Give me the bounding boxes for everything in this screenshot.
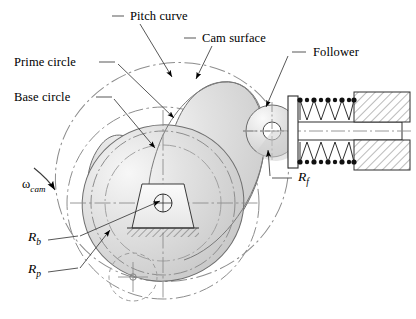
label-prime-circle: Prime circle xyxy=(14,56,76,69)
r-f-subscript: f xyxy=(306,177,309,187)
cam-follower-diagram: Pitch curve Cam surface Prime circle Bas… xyxy=(0,0,416,319)
label-pitch-curve: Pitch curve xyxy=(130,10,188,23)
label-r-f: Rf xyxy=(298,170,309,187)
omega-subscript: cam xyxy=(30,184,45,194)
label-r-p: Rp xyxy=(28,262,41,279)
r-b-subscript: b xyxy=(36,237,41,247)
label-base-circle: Base circle xyxy=(14,91,70,104)
r-p-subscript: p xyxy=(36,269,41,279)
label-omega-cam: ωcam xyxy=(22,178,46,194)
label-cam-surface: Cam surface xyxy=(202,32,266,45)
label-r-b: Rb xyxy=(28,230,41,247)
label-follower: Follower xyxy=(313,46,359,59)
